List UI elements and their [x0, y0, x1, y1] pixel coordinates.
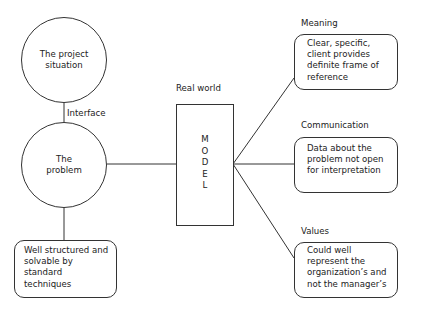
- meaning-text: Clear, specific, client provides definit…: [307, 38, 379, 82]
- model-letter: O: [177, 146, 233, 158]
- problem-text: The problem: [42, 154, 86, 176]
- model-letters: M O D E L: [177, 134, 233, 192]
- model-to-values-connector: [233, 164, 294, 258]
- values-text: Could well represent the organization’s …: [307, 245, 387, 289]
- communication-heading: Communication: [301, 120, 369, 131]
- project-situation-node: The project situation: [21, 17, 107, 103]
- model-letter: E: [177, 169, 233, 181]
- real-world-label: Real world: [176, 83, 221, 94]
- model-to-meaning-connector: [233, 78, 294, 164]
- project-situation-text: The project situation: [34, 49, 94, 71]
- meaning-heading: Meaning: [301, 18, 338, 29]
- model-letter: D: [177, 157, 233, 169]
- interface-label: Interface: [67, 108, 105, 119]
- communication-node: Data about the problem not open for inte…: [294, 137, 398, 193]
- communication-text: Data about the problem not open for inte…: [307, 143, 384, 175]
- solution-approach-text: Well structured and solvable by standard…: [24, 245, 108, 289]
- meaning-node: Clear, specific, client provides definit…: [294, 34, 398, 90]
- values-heading: Values: [301, 226, 329, 237]
- model-letter: M: [177, 134, 233, 146]
- values-node: Could well represent the organization’s …: [294, 242, 398, 298]
- model-box: M O D E L: [176, 104, 234, 226]
- model-letter: L: [177, 180, 233, 192]
- solution-approach-node: Well structured and solvable by standard…: [14, 240, 117, 298]
- problem-node: The problem: [21, 122, 107, 208]
